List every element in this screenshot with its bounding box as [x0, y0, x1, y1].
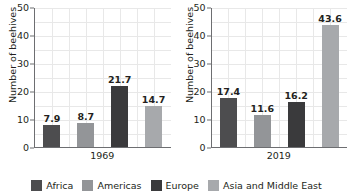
y-tick-label: 50	[193, 3, 205, 13]
legend-swatch-icon	[31, 180, 42, 191]
legend-item: Asia and Middle East	[208, 180, 322, 191]
bar-column: 14.7	[145, 8, 162, 147]
bar: 16.2	[288, 102, 305, 147]
chart-panels: Number of beehives504030201007.98.721.71…	[0, 0, 353, 172]
y-tick-label: 30	[193, 59, 205, 69]
bar-column: 7.9	[43, 8, 60, 147]
bar-value-label: 43.6	[318, 14, 341, 24]
chart-legend: AfricaAmericasEuropeAsia and Middle East	[0, 176, 353, 195]
plot-area: 7.98.721.714.7	[34, 8, 171, 148]
bar-column: 17.4	[220, 8, 237, 147]
bar-column: 43.6	[322, 8, 339, 147]
bar-group: 7.98.721.714.7	[35, 8, 171, 147]
legend-item: Europe	[151, 180, 199, 191]
plot-area: 17.411.616.243.6	[211, 8, 348, 148]
legend-label: Asia and Middle East	[223, 180, 322, 191]
y-tick-label: 50	[17, 3, 29, 13]
bar: 14.7	[145, 106, 162, 147]
chart-panel-1969: Number of beehives504030201007.98.721.71…	[0, 0, 177, 172]
y-tick-label: 10	[17, 115, 29, 125]
chart-panel-2019: Number of beehives5040302010017.411.616.…	[177, 0, 353, 172]
bar: 43.6	[322, 25, 339, 147]
bar-value-label: 14.7	[142, 95, 165, 105]
x-axis-group-label: 1969	[34, 150, 171, 161]
legend-swatch-icon	[208, 180, 219, 191]
legend-swatch-icon	[151, 180, 162, 191]
y-axis-ticks: 50403020100	[177, 8, 211, 148]
y-tick-label: 40	[193, 31, 205, 41]
legend-item: Americas	[82, 180, 141, 191]
bar: 17.4	[220, 98, 237, 147]
y-tick-label: 20	[193, 87, 205, 97]
y-tick-label: 30	[17, 59, 29, 69]
bar-value-label: 17.4	[217, 87, 240, 97]
bar-value-label: 21.7	[108, 75, 131, 85]
legend-label: Africa	[46, 180, 73, 191]
bar-column: 21.7	[111, 8, 128, 147]
x-axis-group-label: 2019	[211, 150, 348, 161]
bar: 11.6	[254, 115, 271, 147]
bar: 8.7	[77, 123, 94, 147]
y-axis-ticks: 50403020100	[0, 8, 34, 148]
bar-value-label: 8.7	[77, 112, 94, 122]
y-tick-label: 40	[17, 31, 29, 41]
bar: 21.7	[111, 86, 128, 147]
bar-value-label: 16.2	[284, 91, 307, 101]
legend-swatch-icon	[82, 180, 93, 191]
beehives-grouped-bar-chart: Number of beehives504030201007.98.721.71…	[0, 0, 353, 195]
legend-item: Africa	[31, 180, 73, 191]
bar-value-label: 7.9	[44, 114, 61, 124]
bar-group: 17.411.616.243.6	[212, 8, 348, 147]
bar-column: 11.6	[254, 8, 271, 147]
legend-label: Americas	[97, 180, 141, 191]
bar: 7.9	[43, 125, 60, 147]
bar-column: 8.7	[77, 8, 94, 147]
y-tick-label: 0	[199, 143, 205, 153]
bar-value-label: 11.6	[251, 104, 274, 114]
legend-label: Europe	[166, 180, 199, 191]
y-tick-label: 0	[23, 143, 29, 153]
y-tick-label: 20	[17, 87, 29, 97]
bar-column: 16.2	[288, 8, 305, 147]
y-tick-label: 10	[193, 115, 205, 125]
